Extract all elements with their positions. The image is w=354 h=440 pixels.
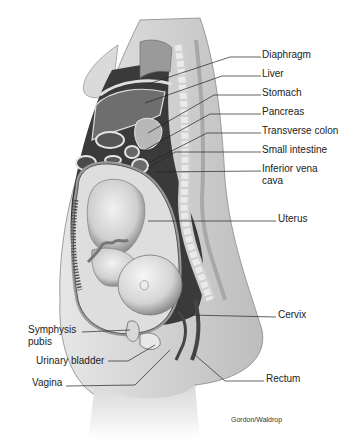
label-transverse-colon: Transverse colon <box>262 125 338 137</box>
label-rectum: Rectum <box>266 373 300 385</box>
anatomy-figure: Diaphragm Liver Stomach Pancreas Transve… <box>0 0 354 440</box>
label-symphysis-pubis-line1: Symphysis <box>28 324 76 335</box>
label-diaphragm: Diaphragm <box>262 49 311 61</box>
pancreas <box>125 146 139 158</box>
transverse-colon <box>96 132 124 148</box>
label-inferior-vena-cava: Inferior vena cava <box>262 163 318 187</box>
label-liver: Liver <box>262 68 284 80</box>
symphysis-pubis <box>126 321 139 341</box>
label-inferior-vena-cava-line2: cava <box>262 175 283 186</box>
label-uterus: Uterus <box>278 213 307 225</box>
label-cervix: Cervix <box>278 309 306 321</box>
label-vagina: Vagina <box>32 377 62 389</box>
label-pancreas: Pancreas <box>262 106 304 118</box>
label-symphysis-pubis: Symphysis pubis <box>28 324 76 348</box>
label-urinary-bladder: Urinary bladder <box>36 355 104 367</box>
label-inferior-vena-cava-line1: Inferior vena <box>262 163 318 174</box>
label-symphysis-pubis-line2: pubis <box>28 336 52 347</box>
label-small-intestine: Small intestine <box>262 144 327 156</box>
label-stomach: Stomach <box>262 87 301 99</box>
illustration-credit: Gordon/Waldrop <box>231 416 282 423</box>
fetus-head <box>118 255 182 315</box>
